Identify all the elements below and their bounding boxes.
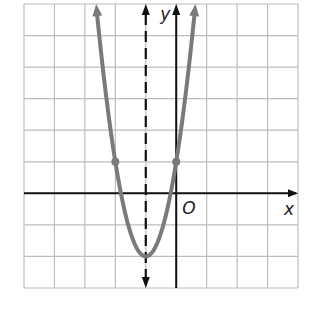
axes: [24, 4, 298, 288]
point-marker: [172, 158, 180, 166]
grid: [24, 4, 298, 288]
curve-arrow-icon: [92, 4, 102, 16]
symmetry-arrow-up-icon: [142, 4, 150, 15]
x-axis-label: x: [283, 199, 295, 219]
y-axis-label: y: [159, 4, 171, 24]
x-axis-arrow-icon: [288, 189, 298, 197]
symmetry-arrow-down-icon: [142, 277, 150, 288]
origin-label: O: [182, 198, 195, 218]
point-marker: [111, 158, 119, 166]
parabola-graph: y x O: [0, 0, 313, 310]
y-axis-arrow-icon: [172, 4, 180, 15]
curve-arrow-icon: [189, 4, 199, 16]
